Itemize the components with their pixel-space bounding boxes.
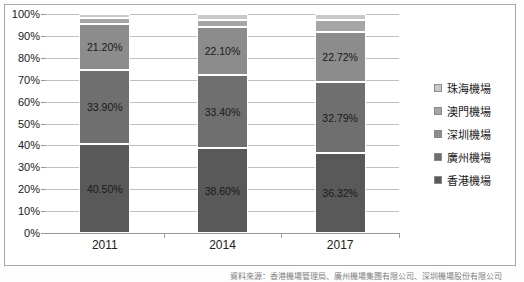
- legend-item[interactable]: 香港機場: [434, 170, 512, 189]
- y-axis-tick-label: 30%: [18, 162, 40, 173]
- y-axis-labels: 0%10%20%30%40%50%60%70%80%90%100%: [0, 0, 40, 240]
- bar-segment-label: 33.40%: [205, 106, 241, 118]
- y-axis-tick-label: 0%: [24, 228, 40, 239]
- x-axis-line: [46, 233, 399, 234]
- bar-segment[interactable]: 21.20%: [79, 24, 130, 70]
- x-axis-tick-label: 2017: [305, 238, 375, 252]
- bar-segment-label: 36.32%: [322, 187, 358, 199]
- y-axis-tick-label: 90%: [18, 31, 40, 42]
- bar-segment[interactable]: [79, 18, 130, 24]
- legend-item[interactable]: 珠海機場: [434, 78, 512, 97]
- bar-segment[interactable]: 32.79%: [315, 82, 366, 154]
- legend-item-label: 香港機場: [447, 172, 491, 188]
- y-axis-tick-label: 100%: [12, 9, 40, 20]
- legend-item[interactable]: 深圳機場: [434, 124, 512, 143]
- bar-segment[interactable]: 22.72%: [315, 32, 366, 82]
- y-axis-tick-label: 60%: [18, 97, 40, 108]
- bar-segment[interactable]: 40.50%: [79, 144, 130, 233]
- chart-figure: 0%10%20%30%40%50%60%70%80%90%100% 40.50%…: [0, 0, 524, 282]
- bar-segment-label: 22.72%: [322, 51, 358, 63]
- legend-item-label: 澳門機場: [447, 103, 491, 119]
- legend-swatch-icon: [434, 84, 442, 92]
- source-caption: 資料來源：香港機場管理局、廣州機場集團有限公司、深圳機場股份有限公司: [230, 270, 524, 281]
- bar-stack[interactable]: 36.32%32.79%22.72%: [315, 14, 366, 233]
- y-axis-tick-label: 70%: [18, 75, 40, 86]
- bar-segment[interactable]: [79, 14, 130, 18]
- x-axis-tick-label: 2011: [70, 238, 140, 252]
- legend-item-label: 廣州機場: [447, 149, 491, 165]
- bar-segment[interactable]: 33.40%: [197, 75, 248, 148]
- bar-stack[interactable]: 38.60%33.40%22.10%: [197, 14, 248, 233]
- legend-item[interactable]: 澳門機場: [434, 101, 512, 120]
- chart-legend: 珠海機場澳門機場深圳機場廣州機場香港機場: [434, 78, 512, 193]
- legend-swatch-icon: [434, 130, 442, 138]
- y-axis-tick-label: 20%: [18, 184, 40, 195]
- bar-segment[interactable]: [197, 20, 248, 27]
- y-axis-tick-mark: [41, 233, 46, 234]
- x-axis-tick-mark: [281, 233, 282, 238]
- bar-segment[interactable]: [315, 20, 366, 32]
- bar-segment[interactable]: 33.90%: [79, 70, 130, 144]
- bar-segment[interactable]: [197, 14, 248, 20]
- bar-segment-label: 40.50%: [87, 183, 123, 195]
- x-axis-tick-label: 2014: [188, 238, 258, 252]
- bar-segment[interactable]: [315, 14, 366, 20]
- y-axis-tick-label: 50%: [18, 119, 40, 130]
- bar-segment-label: 33.90%: [87, 101, 123, 113]
- x-axis-tick-mark: [164, 233, 165, 238]
- y-axis-tick-label: 80%: [18, 53, 40, 64]
- bar-segment-label: 22.10%: [205, 45, 241, 57]
- legend-swatch-icon: [434, 153, 442, 161]
- legend-item-label: 珠海機場: [447, 80, 491, 96]
- bar-segment-label: 38.60%: [205, 185, 241, 197]
- bar-segment[interactable]: 38.60%: [197, 148, 248, 233]
- bar-segment[interactable]: 22.10%: [197, 27, 248, 75]
- bar-segment-label: 21.20%: [87, 41, 123, 53]
- x-axis-tick-mark: [399, 233, 400, 238]
- plot-area: 40.50%33.90%21.20%38.60%33.40%22.10%36.3…: [46, 14, 399, 233]
- bar-segment[interactable]: 36.32%: [315, 153, 366, 233]
- y-axis-tick-label: 40%: [18, 140, 40, 151]
- legend-item-label: 深圳機場: [447, 126, 491, 142]
- legend-item[interactable]: 廣州機場: [434, 147, 512, 166]
- legend-swatch-icon: [434, 176, 442, 184]
- bar-stack[interactable]: 40.50%33.90%21.20%: [79, 14, 130, 233]
- y-axis-tick-label: 10%: [18, 206, 40, 217]
- bar-segment-label: 32.79%: [322, 112, 358, 124]
- legend-swatch-icon: [434, 107, 442, 115]
